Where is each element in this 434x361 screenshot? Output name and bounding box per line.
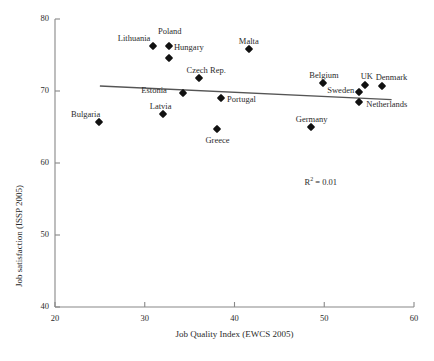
y-tick-label: 60 xyxy=(27,157,49,167)
data-point-label: Estonia xyxy=(141,85,167,95)
data-point-label: Poland xyxy=(158,26,182,36)
data-point-label: UK xyxy=(361,71,373,81)
data-point-label: Denmark xyxy=(376,72,408,82)
data-point-label: Portugal xyxy=(227,94,256,104)
x-tick-label: 50 xyxy=(312,313,336,323)
data-point-label: Netherlands xyxy=(366,99,407,109)
y-tick-label: 80 xyxy=(27,13,49,23)
data-point-label: Germany xyxy=(296,114,328,124)
x-tick-label: 40 xyxy=(223,313,247,323)
scatter-plot-chart: Job Quality Index (EWCS 2005) Job satisf… xyxy=(0,0,434,361)
chart-canvas xyxy=(0,0,434,361)
data-point-label: Hungary xyxy=(174,42,204,52)
x-tick-label: 20 xyxy=(43,313,67,323)
data-point-label: Belgium xyxy=(309,70,338,80)
y-tick-label: 50 xyxy=(27,229,49,239)
data-point-label: Lithuania xyxy=(118,33,151,43)
x-tick-label: 60 xyxy=(402,313,426,323)
data-point-label: Greece xyxy=(205,135,229,145)
y-axis-title: Job satisfaction (ISSP 2005) xyxy=(14,185,24,287)
y-tick-label: 40 xyxy=(27,301,49,311)
data-point-label: Bulgaria xyxy=(71,109,100,119)
data-point-label: Latvia xyxy=(150,101,172,111)
data-point-label: Malta xyxy=(239,36,259,46)
x-axis-title: Job Quality Index (EWCS 2005) xyxy=(165,329,305,339)
x-tick-label: 30 xyxy=(133,313,157,323)
y-tick-label: 70 xyxy=(27,85,49,95)
data-point-label: Sweden xyxy=(327,85,354,95)
r-squared-annotation: R2 = 0.01 xyxy=(305,176,338,187)
data-point-label: Czech Rep. xyxy=(187,65,226,75)
